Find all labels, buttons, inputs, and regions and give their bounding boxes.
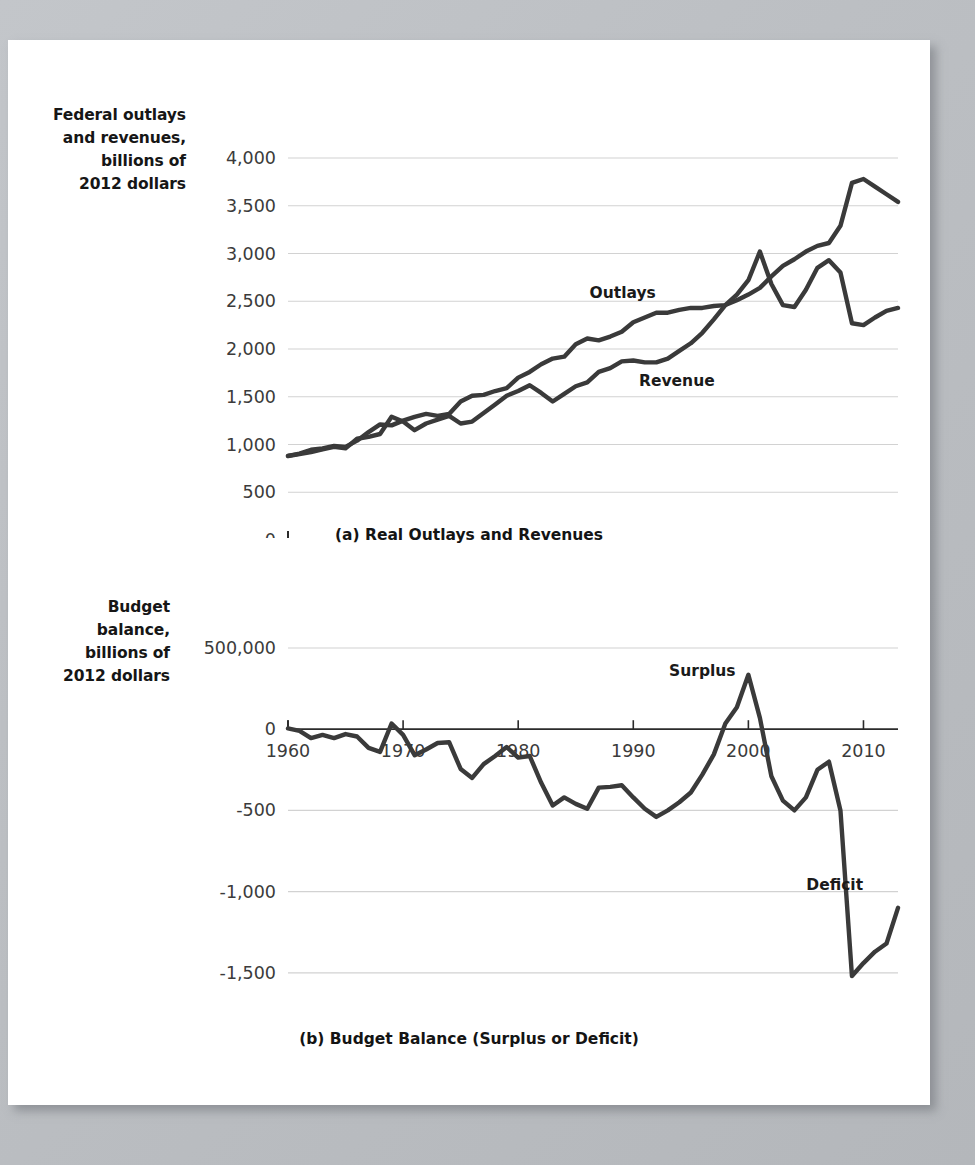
y-axis-tick-label: 1,500 [226,387,276,407]
x-axis-tick-label: 2010 [841,741,886,761]
annotation-deficit: Deficit [806,876,863,894]
y-axis-tick-label: 0 [265,719,276,739]
series-label-outlays: Outlays [590,284,656,302]
panel-a-caption: (a) Real Outlays and Revenues [8,526,930,544]
y-axis-tick-label: 2,500 [226,291,276,311]
panel-budget-balance: Budget balance, billions of 2012 dollars… [8,560,930,1080]
annotation-surplus: Surplus [669,662,736,680]
y-axis-tick-label: 2,000 [226,339,276,359]
y-axis-tick-label: 4,000 [226,148,276,168]
figure-card: Federal outlays and revenues, billions o… [8,40,930,1105]
series-line-outlays [288,179,898,456]
y-axis-tick-label: -1,500 [220,963,276,983]
y-axis-tick-label: 3,500 [226,196,276,216]
y-axis-tick-label: -500 [236,800,276,820]
panel-real-outlays-and-revenues: Federal outlays and revenues, billions o… [8,68,930,568]
y-axis-tick-label: -1,000 [220,882,276,902]
chart-a-canvas: 05001,0001,5002,0002,5003,0003,5004,0001… [8,68,930,538]
y-axis-tick-label: 3,000 [226,244,276,264]
series-line-budget-balance [288,675,898,976]
y-axis-tick-label: 500,000 [204,638,276,658]
x-axis-tick-label: 1990 [611,741,656,761]
y-axis-tick-label: 1,000 [226,435,276,455]
panel-b-caption: (b) Budget Balance (Surplus or Deficit) [8,1030,930,1048]
x-axis-tick-label: 1960 [266,741,311,761]
series-label-revenue: Revenue [639,372,715,390]
y-axis-tick-label: 500 [243,482,276,502]
chart-b-canvas: 500,0000-500-1,000-1,500-2,0001960197019… [8,560,930,1040]
